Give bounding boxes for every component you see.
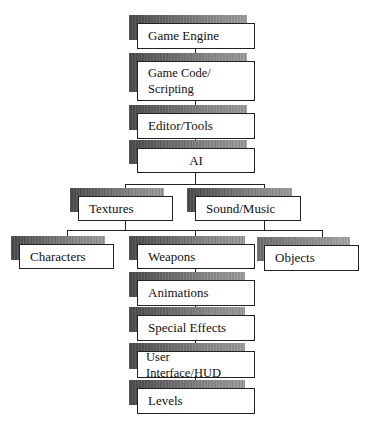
node-ai: AI <box>137 148 255 173</box>
connector-textures-down <box>125 220 126 230</box>
node-game-code-scripting: Game Code/ Scripting <box>137 61 255 101</box>
node-label: Objects <box>275 250 315 266</box>
node-levels: Levels <box>137 388 255 414</box>
node-label: User Interface/HUD <box>146 349 246 381</box>
node-label: Weapons <box>148 249 195 265</box>
node-label: Game Engine <box>148 28 219 44</box>
node-label: Sound/Music <box>206 201 275 217</box>
node-label: Special Effects <box>148 320 226 336</box>
connector-sound-down <box>264 220 265 230</box>
node-textures: Textures <box>78 196 173 221</box>
node-label: Animations <box>148 285 209 301</box>
node-editor-tools: Editor/Tools <box>137 113 255 139</box>
node-label: Levels <box>148 393 183 409</box>
node-sound-music: Sound/Music <box>195 196 301 221</box>
node-special-effects: Special Effects <box>137 315 255 341</box>
node-label: AI <box>189 153 203 169</box>
node-label: Game Code/ Scripting <box>148 65 211 97</box>
game-development-hierarchy-diagram: Game Engine Game Code/ Scripting Editor/… <box>0 0 372 428</box>
connector-ai-down <box>195 172 196 184</box>
node-game-engine: Game Engine <box>137 23 255 49</box>
node-user-interface-hud: User Interface/HUD <box>137 351 255 378</box>
node-label: Editor/Tools <box>148 118 213 134</box>
connector-ai-branch <box>125 184 265 185</box>
node-objects: Objects <box>264 245 359 271</box>
node-characters: Characters <box>19 244 114 269</box>
node-label: Characters <box>30 249 86 265</box>
node-weapons: Weapons <box>137 244 255 269</box>
node-label: Textures <box>89 201 134 217</box>
node-animations: Animations <box>137 280 255 306</box>
